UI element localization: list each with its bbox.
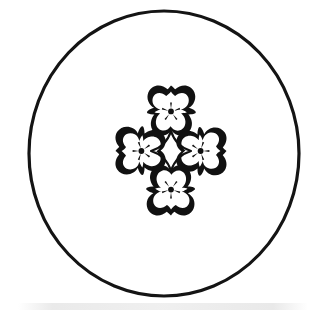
crest-drawing: Encircled Four-Blossom Crest Black ink c…	[0, 0, 321, 313]
crest-figure: Encircled Four-Blossom Crest Black ink c…	[0, 0, 321, 313]
